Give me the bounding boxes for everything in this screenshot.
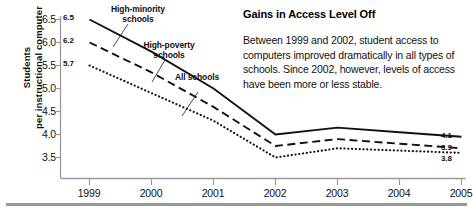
- x-tick-label-2004: 2004: [377, 187, 421, 199]
- figure-container: Students per instructional computer 6.5 …: [0, 0, 473, 214]
- series-end-label-high-poverty: 3.9: [441, 143, 452, 152]
- panel-headline: Gains in Access Level Off: [243, 8, 469, 20]
- bottom-divider-rule: [6, 203, 467, 206]
- x-tick-label-2005: 2005: [439, 187, 473, 199]
- line-chart: Students per instructional computer 6.5 …: [0, 0, 240, 200]
- series-end-label-high-minority: 4.1: [441, 131, 452, 140]
- x-tick-label-2002: 2002: [253, 187, 297, 199]
- x-tick-label-1999: 1999: [67, 187, 111, 199]
- sidebar-text-panel: Gains in Access Level Off Between 1999 a…: [243, 8, 469, 91]
- y-axis-ticks: [55, 20, 61, 158]
- x-tick-label-2000: 2000: [129, 187, 173, 199]
- series-end-label-all-schools: 3.8: [441, 154, 452, 163]
- x-tick-label-2003: 2003: [315, 187, 359, 199]
- x-axis-ticks: [90, 179, 462, 186]
- x-tick-label-2001: 2001: [191, 187, 235, 199]
- leader-line-all-schools: [182, 92, 198, 116]
- panel-body-text: Between 1999 and 2002, student access to…: [243, 33, 469, 91]
